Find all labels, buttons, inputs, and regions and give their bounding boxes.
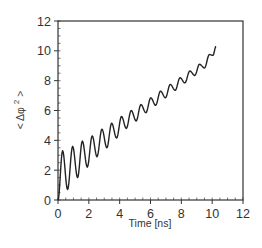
y-tick-label: 4 — [44, 134, 51, 148]
y-tick-label: 8 — [44, 74, 51, 88]
x-tick-label: 8 — [178, 207, 185, 221]
y-tick-label: 12 — [37, 15, 51, 29]
line-chart: 024681012 024681012 Time [ns] < Δφ 2 > — [0, 0, 262, 248]
y-tick-label: 2 — [44, 164, 51, 178]
x-axis-title: Time [ns] — [129, 217, 172, 229]
x-tick-label: 2 — [85, 207, 92, 221]
x-tick-label: 0 — [55, 207, 62, 221]
x-tick-label: 10 — [205, 207, 219, 221]
x-tick-label: 12 — [236, 207, 250, 221]
y-tick-label: 0 — [44, 194, 51, 208]
x-tick-label: 4 — [116, 207, 123, 221]
y-tick-label: 6 — [44, 104, 51, 118]
y-tick-label: 10 — [37, 44, 51, 58]
data-series-line — [58, 46, 216, 200]
y-axis-title-open: < Δφ — [14, 104, 26, 129]
y-axis-title-close: > — [14, 91, 26, 100]
y-axis-title: < Δφ 2 > — [12, 91, 26, 130]
y-tick-labels: 024681012 — [37, 15, 51, 208]
